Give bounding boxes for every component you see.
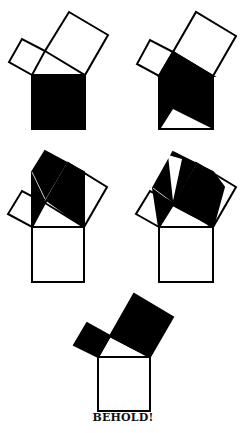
figure-1 [9,12,108,129]
figure-2 [137,12,236,129]
figure-3 [8,151,107,282]
figure-4 [136,152,236,282]
large-leg-square-shaded [110,294,173,357]
hypotenuse-square [32,227,84,282]
hypotenuse-square-shaded [32,75,85,129]
small-leg-square [9,39,45,75]
figure-5 [74,294,173,411]
proof-diagram: .o { fill:none; stroke:#000; stroke-widt… [0,0,246,433]
large-leg-square [45,12,108,75]
hypotenuse-square [159,227,213,282]
small-leg-square-shaded [74,323,110,357]
hypotenuse-square [98,357,150,411]
caption: BEHOLD! [0,411,246,424]
